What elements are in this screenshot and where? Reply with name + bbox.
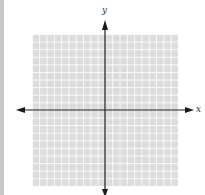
axes [0,0,205,195]
x-axis-left-arrow-icon [16,107,25,113]
x-axis-label: x [196,104,201,114]
y-axis-top-arrow-icon [102,20,108,30]
y-axis [102,20,108,195]
x-axis-right-arrow-icon [185,107,194,113]
y-axis-bottom-arrow-icon [102,189,108,195]
y-axis-label: y [102,5,107,15]
